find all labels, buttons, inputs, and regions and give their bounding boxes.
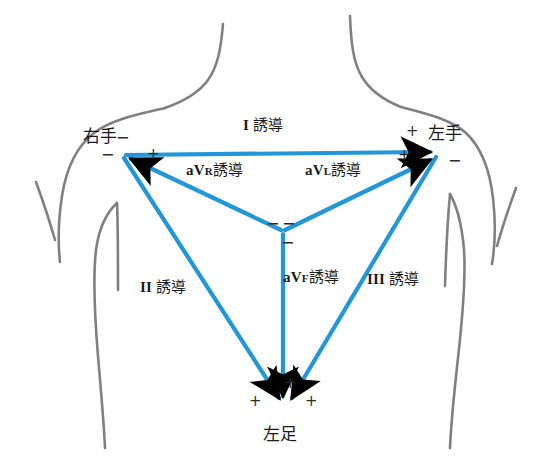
lead-aVF-sub: F xyxy=(302,272,309,284)
lead-aVR-suffix: 誘導 xyxy=(213,161,243,179)
polarity-aVF-positive: + xyxy=(284,376,297,391)
polarity-lead-II-positive: + xyxy=(249,394,262,409)
lead-III-suffix: 誘導 xyxy=(389,270,419,288)
lead-label-II: II誘導 xyxy=(140,275,186,296)
lead-line-I xyxy=(126,152,430,155)
ecg-diagram-canvas xyxy=(0,0,546,468)
polarity-lead-I-negative: − xyxy=(101,147,114,163)
polarity-left-hand-site-plus: + xyxy=(406,124,419,139)
lead-I-roman: I xyxy=(243,117,249,133)
lead-I-suffix: 誘導 xyxy=(253,116,283,134)
lead-label-aVR: aVR誘導 xyxy=(186,158,243,179)
armpit-line-right xyxy=(497,188,516,246)
polarity-central-terminal-minus-1: − xyxy=(266,216,279,232)
pectoral-line-right xyxy=(445,194,450,286)
armpit-line-left xyxy=(36,182,55,240)
polarity-aVR-positive: + xyxy=(147,147,160,162)
lead-aVF-suffix: 誘導 xyxy=(309,268,339,286)
polarity-central-terminal-minus-2: − xyxy=(282,216,295,232)
torso-side-right xyxy=(450,194,465,448)
lead-aVR-sub: R xyxy=(205,165,213,177)
lead-aVL-suffix: 誘導 xyxy=(331,161,361,179)
lead-aVF-prefix: aV xyxy=(283,269,302,285)
lead-II-roman: II xyxy=(140,279,152,295)
lead-label-I: I誘導 xyxy=(243,113,283,134)
polarity-lead-I-positive: + xyxy=(398,148,411,163)
polarity-right-hand-site-minus: − xyxy=(116,130,129,146)
lead-label-III: III誘導 xyxy=(367,267,420,288)
polarity-central-terminal-minus-3: − xyxy=(281,235,294,251)
lead-aVL-prefix: aV xyxy=(305,162,324,178)
lead-II-suffix: 誘導 xyxy=(156,278,186,296)
lead-label-aVL: aVL誘導 xyxy=(305,158,362,179)
lead-label-aVF: aVF誘導 xyxy=(283,265,339,286)
polarity-lead-III-positive: + xyxy=(305,394,318,409)
ecg-lead-diagram: I誘導 aVR誘導 aVL誘導 II誘導 aVF誘導 III誘導 右手 左手 左… xyxy=(0,0,546,468)
site-label-left-foot: 左足 xyxy=(263,420,297,445)
torso-side-left xyxy=(95,203,117,448)
lead-III-roman: III xyxy=(367,271,385,287)
polarity-lead-III-negative: − xyxy=(448,153,461,169)
neck-line-left xyxy=(165,24,223,108)
neck-line-right xyxy=(350,16,401,107)
pectoral-line-left xyxy=(117,203,118,290)
lead-aVR-prefix: aV xyxy=(186,162,205,178)
site-label-right-hand: 右手 xyxy=(83,122,117,147)
site-label-left-hand: 左手 xyxy=(428,119,462,144)
